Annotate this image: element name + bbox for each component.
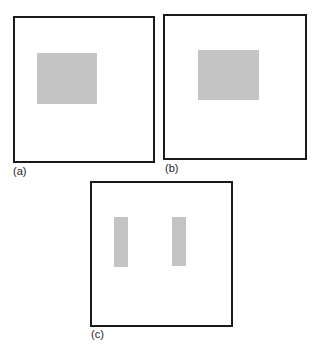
panel-b-label: (b): [165, 163, 178, 174]
panel-c-right-bar: [172, 217, 186, 266]
panel-a-frame: [13, 16, 155, 163]
panel-c-label: (c): [91, 329, 104, 340]
panel-b-gray-rectangle: [198, 50, 259, 100]
panel-a-label: (a): [13, 166, 26, 177]
panel-c-left-bar: [114, 217, 128, 267]
panel-c-frame: [90, 181, 233, 327]
panel-b-frame: [163, 14, 307, 160]
panel-a-gray-rectangle: [37, 53, 97, 104]
